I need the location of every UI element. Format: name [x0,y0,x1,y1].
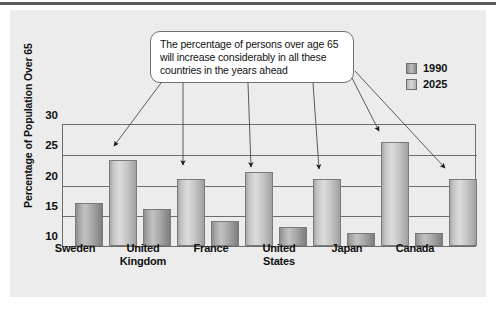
bar-united-kingdom-2025 [177,179,205,246]
legend-swatch-1990-icon [406,63,417,74]
x-label-united-kingdom: United Kingdom [108,242,178,267]
top-divider-rule [0,2,496,5]
bar-sweden-1990 [75,203,103,246]
x-label-japan: Japan [312,242,382,255]
bar-canada-2025 [449,179,477,246]
x-label-sweden-line1: Sweden [40,242,110,255]
x-label-united-states: United States [244,242,314,267]
figure-root: Percentage of Population Over 65 30 25 2… [0,0,496,313]
x-label-japan-line1: Japan [312,242,382,255]
legend-label-2025: 2025 [423,78,447,90]
legend-item-1990: 1990 [406,62,447,74]
y-tick-20: 20 [26,170,58,182]
x-label-sweden: Sweden [40,242,110,255]
x-label-united-states-line1: United [244,242,314,255]
plot-area [62,124,476,247]
legend-item-2025: 2025 [406,78,447,90]
gridline-25 [63,155,477,156]
x-label-canada: Canada [380,242,450,255]
y-tick-25: 25 [26,139,58,151]
bar-united-kingdom-1990 [143,209,171,246]
y-tick-30: 30 [26,109,58,121]
bar-united-states-2025 [313,179,341,246]
y-tick-10: 10 [26,230,58,242]
x-label-france: France [176,242,246,255]
x-label-united-kingdom-line2: Kingdom [108,255,178,268]
legend-swatch-2025-icon [406,79,417,90]
x-label-france-line1: France [176,242,246,255]
bar-japan-2025 [381,142,409,246]
x-label-united-states-line2: States [244,255,314,268]
x-label-united-kingdom-line1: United [108,242,178,255]
legend-label-1990: 1990 [423,62,447,74]
bar-sweden-2025 [109,160,137,246]
annotation-callout: The percentage of persons over age 65 wi… [150,31,354,83]
chart-legend: 1990 2025 [406,62,447,94]
y-tick-15: 15 [26,200,58,212]
x-label-canada-line1: Canada [380,242,450,255]
y-axis-title: Percentage of Population Over 65 [22,48,34,208]
bar-france-2025 [245,172,273,246]
